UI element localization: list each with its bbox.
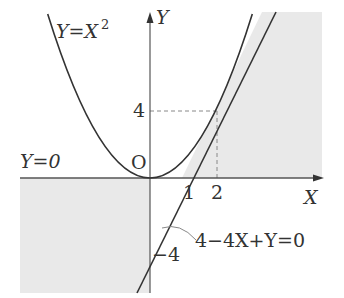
y-axis-arrow-icon bbox=[147, 12, 154, 23]
tangent-line-label: 4−4X+Y=0 bbox=[195, 231, 305, 250]
x-tick-1-label: 1 bbox=[183, 183, 195, 202]
shaded-region-upper-right bbox=[182, 12, 322, 178]
shaded-region-lower-left bbox=[20, 178, 150, 293]
origin-label: O bbox=[131, 153, 147, 172]
y-tick-4-label: 4 bbox=[133, 101, 145, 120]
y-tick-minus-4-label: −4 bbox=[152, 245, 180, 264]
x-tick-2-label: 2 bbox=[211, 183, 223, 202]
parabola-label: Y=X2 bbox=[56, 18, 109, 41]
x-axis-label: X bbox=[304, 188, 318, 207]
x-axis-line-label: Y=0 bbox=[20, 152, 61, 171]
y-axis-label: Y bbox=[156, 8, 169, 27]
